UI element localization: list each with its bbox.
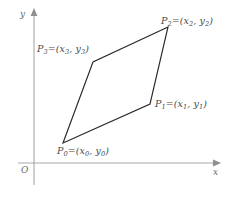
origin-label: O [21, 166, 28, 175]
vertex-p3-letter: P [37, 43, 44, 54]
vertex-p2-y-index: 2 [205, 20, 209, 28]
vertex-p0-close: ) [105, 145, 109, 156]
vertex-p2-x-index: 2 [189, 20, 193, 28]
vertex-p1-y-index: 1 [199, 103, 203, 111]
vertex-p0-index: 0 [64, 150, 68, 158]
vertex-label-p3: P3=(x3, y3) [37, 44, 89, 54]
vertex-label-p1: P1=(x1, y1) [155, 99, 207, 109]
vertex-label-p2: P2=(x2, y2) [161, 16, 213, 26]
vertex-p3-close: ) [85, 43, 89, 54]
vertex-p2-equals: =( [172, 15, 184, 26]
vertex-label-p0: P0=(x0, y0) [57, 146, 109, 156]
vertex-p0-x-index: 0 [85, 150, 89, 158]
vertex-p3-index: 3 [44, 48, 48, 56]
vertex-p1-close: ) [203, 98, 207, 109]
vertex-p3-x-index: 3 [65, 48, 69, 56]
parallelogram-figure: O x y P0=(x0, y0) P1=(x1, y1) P2=(x2, y2… [0, 0, 237, 198]
x-axis-label: x [213, 168, 218, 177]
vertex-p1-x-index: 1 [183, 103, 187, 111]
vertex-p2-close: ) [209, 15, 213, 26]
vertex-p3-y-index: 3 [81, 48, 85, 56]
vertex-p2-index: 2 [168, 20, 172, 28]
vertex-p0-y-index: 0 [101, 150, 105, 158]
vertex-p1-letter: P [155, 98, 162, 109]
vertex-p3-equals: =( [48, 43, 60, 54]
vertex-p1-index: 1 [162, 103, 166, 111]
arrow-up-icon [31, 8, 38, 16]
vertex-p1-equals: =( [166, 98, 178, 109]
arrow-right-icon [213, 160, 221, 167]
vertex-p0-equals: =( [68, 145, 80, 156]
vertex-p0-letter: P [57, 145, 64, 156]
vertex-p2-letter: P [161, 15, 168, 26]
y-axis-label: y [20, 10, 25, 19]
